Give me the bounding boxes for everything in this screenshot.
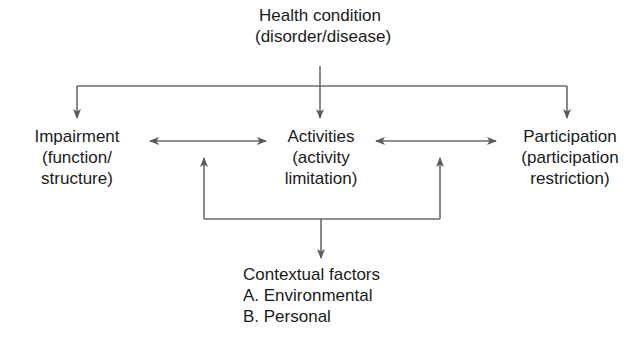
participation-title: Participation (508, 126, 632, 147)
impairment-title: Impairment (22, 126, 132, 147)
activities-line3: limitation) (268, 168, 374, 189)
participation-line3: restriction) (508, 168, 632, 189)
contextual-title: Contextual factors (243, 264, 403, 285)
node-participation: Participation (participation restriction… (508, 126, 632, 189)
contextual-personal: B. Personal (243, 306, 403, 327)
node-impairment: Impairment (function/ structure) (22, 126, 132, 189)
impairment-line2: (function/ (22, 147, 132, 168)
contextual-environmental: A. Environmental (243, 285, 403, 306)
activities-line2: (activity (268, 147, 374, 168)
node-contextual-factors: Contextual factors A. Environmental B. P… (243, 264, 403, 327)
node-activities: Activities (activity limitation) (268, 126, 374, 189)
health-condition-subtitle: (disorder/disease) (255, 26, 385, 47)
node-health-condition: Health condition (disorder/disease) (255, 5, 385, 47)
health-condition-title: Health condition (255, 5, 385, 26)
activities-title: Activities (268, 126, 374, 147)
impairment-line3: structure) (22, 168, 132, 189)
participation-line2: (participation (508, 147, 632, 168)
